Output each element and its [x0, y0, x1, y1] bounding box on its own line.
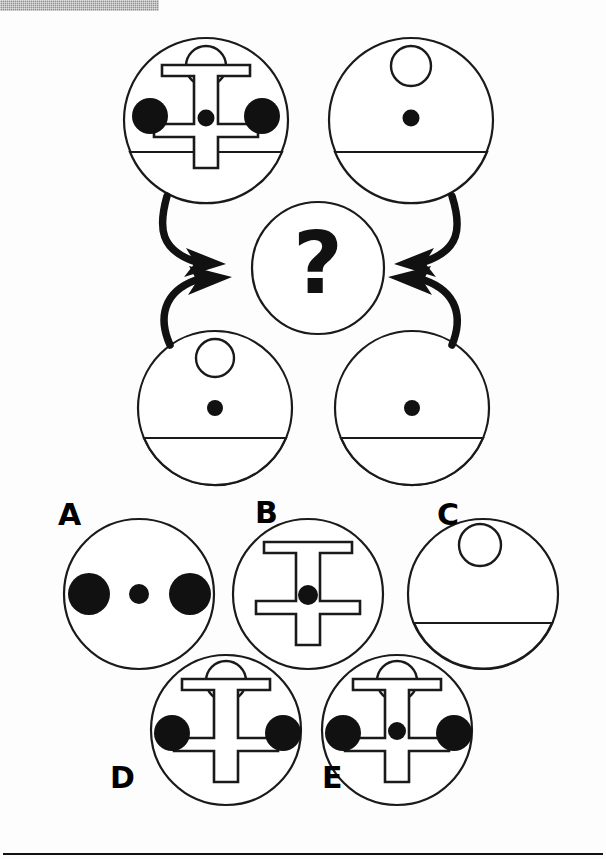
left-dot-icon [154, 715, 190, 751]
bottom-bowl [144, 438, 286, 485]
center-dot-icon [388, 722, 406, 740]
footer-rule [3, 853, 603, 855]
arrow-top-right [394, 196, 457, 277]
puzzle-stage: ? [0, 0, 606, 859]
bottom-bowl [414, 623, 552, 669]
bottom-bowl [341, 438, 483, 485]
option-a-shape[interactable] [64, 519, 214, 669]
arrow-top-left [162, 196, 226, 277]
option-label-a: A [58, 500, 81, 530]
puzzle-canvas: ? [0, 0, 606, 859]
left-dot-icon [325, 715, 361, 751]
right-dot-icon [244, 98, 280, 134]
right-dot-icon [436, 715, 472, 751]
center-dot-icon [198, 110, 215, 127]
right-dot-icon [169, 573, 211, 615]
center-dot-icon [207, 400, 223, 416]
option-label-b: B [255, 498, 277, 528]
option-label-e: E [322, 763, 342, 793]
matrix-cell-top-right [329, 38, 493, 203]
center-dot-icon [298, 585, 318, 605]
center-dot-icon [403, 110, 420, 127]
question-mark-glyph: ? [293, 213, 343, 313]
matrix-cell-bottom-left [138, 331, 292, 485]
top-ring-icon [459, 524, 501, 566]
left-dot-icon [132, 98, 168, 134]
option-d-shape[interactable] [151, 655, 301, 805]
matrix-cell-top-left [124, 38, 288, 203]
option-label-c: C [437, 500, 459, 530]
center-dot-icon [129, 584, 149, 604]
right-dot-icon [265, 715, 301, 751]
option-label-d: D [110, 763, 134, 793]
top-ring-icon [391, 46, 431, 86]
option-b-shape[interactable] [233, 519, 383, 669]
answer-slot-cell[interactable]: ? [252, 202, 384, 334]
option-e-shape[interactable] [322, 655, 472, 805]
top-ring-icon [196, 339, 234, 377]
center-dot-icon [404, 400, 420, 416]
bottom-bowl [335, 152, 487, 203]
matrix-cell-bottom-right [335, 331, 489, 485]
left-dot-icon [68, 573, 110, 615]
option-c-shape[interactable] [408, 519, 558, 669]
puzzle-page: ? [0, 0, 606, 859]
